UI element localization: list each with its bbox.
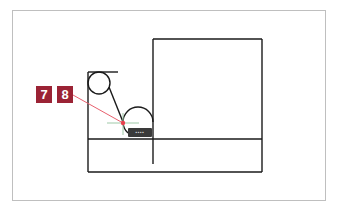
small-circle[interactable] [88,72,110,94]
drawing-canvas[interactable] [0,0,340,209]
snap-point-marker[interactable] [121,121,125,125]
callout-leader-line [73,95,123,123]
snap-tooltip: ▪▪▪▪ [128,128,152,137]
callout-badge-8: 8 [57,86,73,103]
arc[interactable] [123,107,153,122]
drawing-geometry [88,39,262,172]
callout-badge-7: 7 [36,86,52,103]
